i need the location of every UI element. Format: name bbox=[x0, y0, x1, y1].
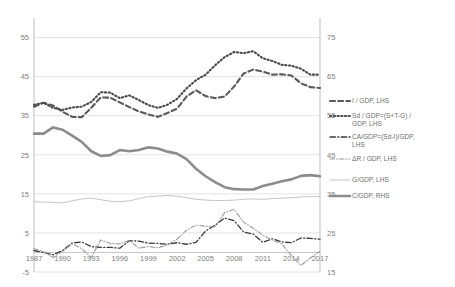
y-axis-left-tick: 35 bbox=[21, 111, 29, 120]
y-axis-left-tick: 15 bbox=[21, 190, 29, 199]
x-axis-tick: 1996 bbox=[111, 254, 128, 263]
x-axis-tick: 1987 bbox=[26, 254, 43, 263]
series-line bbox=[34, 195, 320, 202]
legend-item: CA/GDP=(Sd-I)/GDP,LHS bbox=[330, 133, 415, 148]
legend-label: LHS bbox=[352, 141, 365, 148]
x-axis-tick: 2017 bbox=[312, 254, 329, 263]
x-axis-tick: 1990 bbox=[54, 254, 71, 263]
legend-label: G/GDP, LHS bbox=[352, 176, 389, 183]
legend-item: ΔR / GDP, LHS bbox=[330, 155, 397, 162]
legend-label: Sd / GDP=(S+T-G) / bbox=[352, 112, 411, 120]
legend-label: I / GDP, LHS bbox=[352, 97, 390, 104]
series-line bbox=[34, 127, 320, 189]
legend-label: GDP, LHS bbox=[352, 120, 383, 127]
series-line bbox=[34, 218, 320, 255]
chart-plot: -551525354555152535455565751987199019931… bbox=[0, 0, 455, 287]
x-axis-tick: 1999 bbox=[140, 254, 157, 263]
y-axis-left-tick: 25 bbox=[21, 151, 29, 160]
y-axis-left-tick: 55 bbox=[21, 33, 29, 42]
y-axis-right-tick: 75 bbox=[327, 33, 335, 42]
legend-item: I / GDP, LHS bbox=[330, 97, 390, 104]
y-axis-left-tick: 5 bbox=[25, 229, 29, 238]
x-axis-tick: 2002 bbox=[169, 254, 186, 263]
x-axis-tick: 2008 bbox=[226, 254, 243, 263]
legend-item: Sd / GDP=(S+T-G) /GDP, LHS bbox=[330, 112, 411, 127]
legend-label: ΔR / GDP, LHS bbox=[352, 155, 397, 162]
y-axis-left-tick: 45 bbox=[21, 72, 29, 81]
legend-label: C/GDP, RHS bbox=[352, 192, 390, 199]
y-axis-right-tick: 65 bbox=[327, 72, 335, 81]
x-axis-tick: 2005 bbox=[197, 254, 214, 263]
y-axis-left-tick: -5 bbox=[22, 268, 29, 277]
x-axis-tick: 1993 bbox=[83, 254, 100, 263]
y-axis-right-tick: 25 bbox=[327, 229, 335, 238]
legend-label: CA/GDP=(Sd-I)/GDP, bbox=[352, 133, 415, 141]
x-axis-tick: 2011 bbox=[255, 254, 271, 263]
legend-item: G/GDP, LHS bbox=[330, 176, 389, 183]
y-axis-right-tick: 45 bbox=[327, 151, 335, 160]
legend-item: C/GDP, RHS bbox=[330, 192, 390, 199]
y-axis-right-tick: 15 bbox=[327, 268, 335, 277]
chart-container: -551525354555152535455565751987199019931… bbox=[0, 0, 455, 287]
series-line bbox=[34, 51, 320, 110]
